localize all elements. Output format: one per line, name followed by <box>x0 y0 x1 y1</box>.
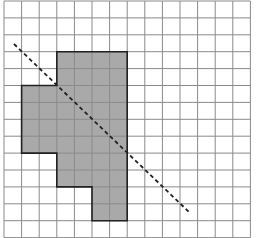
grid-figure <box>0 0 256 238</box>
grid-diagram <box>0 0 256 238</box>
